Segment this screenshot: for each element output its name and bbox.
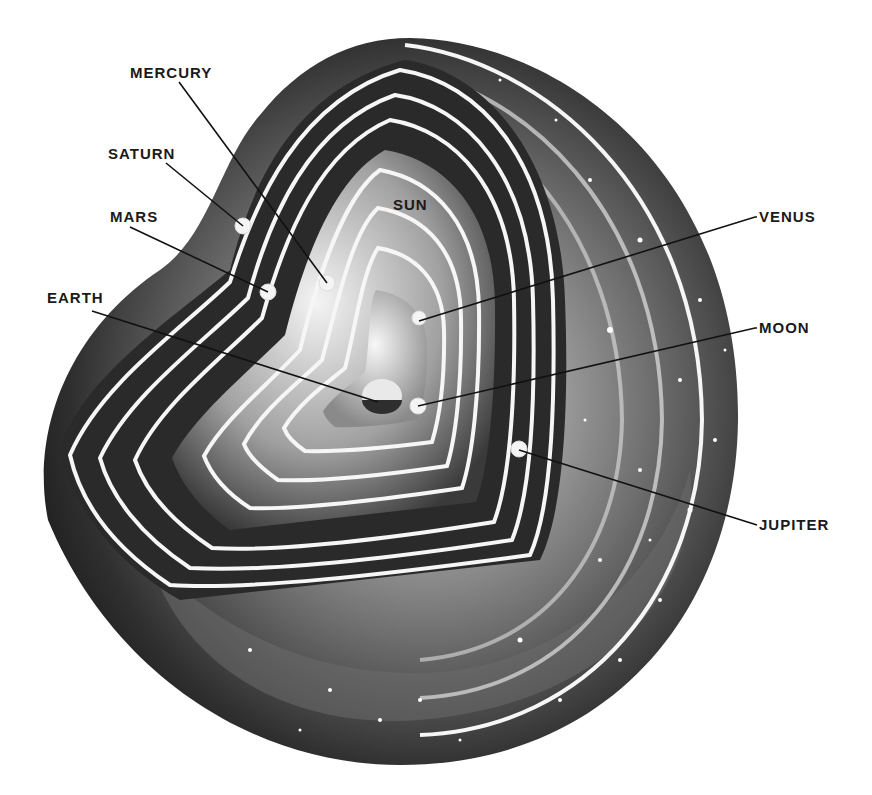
label-sun: SUN [393, 196, 428, 213]
label-earth: EARTH [47, 289, 104, 306]
label-jupiter: JUPITER [759, 516, 829, 533]
celestial-spheres-diagram: MERCURY SATURN MARS SUN VENUS EARTH MOON… [0, 0, 872, 795]
label-moon: MOON [759, 319, 810, 336]
venus-marker [412, 311, 426, 325]
jupiter-marker [511, 441, 527, 457]
earth-globe [362, 379, 402, 414]
label-mars: MARS [110, 208, 158, 225]
label-venus: VENUS [759, 208, 816, 225]
label-saturn: SATURN [108, 145, 175, 162]
label-mercury: MERCURY [130, 64, 212, 81]
